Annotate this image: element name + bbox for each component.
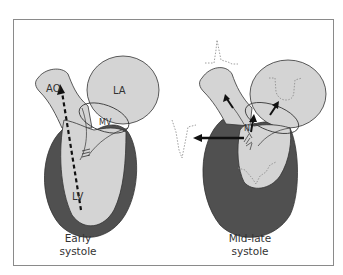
caption-late-line1: Mid-late [215, 232, 285, 245]
left-atrium-late [250, 60, 326, 128]
label-mitral-valve: MV [99, 118, 112, 127]
caption-early-line2: systole [48, 245, 108, 258]
caption-mid-late-systole: Mid-late systole [215, 232, 285, 258]
label-left-atrium: LA [113, 85, 126, 96]
caption-early-line1: Early [48, 232, 108, 245]
label-septal-n: N [244, 124, 250, 133]
label-aorta: AO [46, 83, 61, 94]
caption-early-systole: Early systole [48, 232, 108, 258]
caption-late-line2: systole [215, 245, 285, 258]
label-left-ventricle: LV [72, 191, 83, 202]
